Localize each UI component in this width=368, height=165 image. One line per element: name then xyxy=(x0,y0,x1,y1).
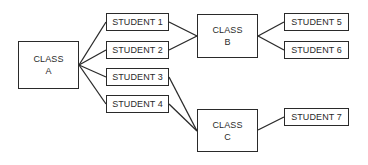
edge-student-4-class-c xyxy=(169,104,197,131)
student-1-box: STUDENT 1 xyxy=(106,13,169,31)
edge-student-2-class-b xyxy=(169,36,197,50)
edge-student-3-class-c xyxy=(169,77,197,131)
student-7-box: STUDENT 7 xyxy=(284,108,349,126)
edge-class-b-student-5 xyxy=(258,22,284,36)
student-4-label: STUDENT 4 xyxy=(112,99,163,110)
student-3-box: STUDENT 3 xyxy=(106,68,169,86)
edge-class-b-student-6 xyxy=(258,36,284,50)
student-2-label: STUDENT 2 xyxy=(112,45,163,56)
student-4-box: STUDENT 4 xyxy=(106,95,169,113)
class-c-label-line2: C xyxy=(224,131,231,143)
class-b-label-line2: B xyxy=(224,36,230,48)
class-c-box: CLASS C xyxy=(197,109,258,152)
class-a-label-line2: A xyxy=(45,65,51,77)
class-b-label-line1: CLASS xyxy=(212,24,242,36)
student-3-label: STUDENT 3 xyxy=(112,72,163,83)
edge-student-1-class-b xyxy=(169,22,197,36)
student-1-label: STUDENT 1 xyxy=(112,17,163,28)
student-7-label: STUDENT 7 xyxy=(291,112,342,123)
class-a-label-line1: CLASS xyxy=(33,53,63,65)
student-5-label: STUDENT 5 xyxy=(291,17,342,28)
class-c-label-line1: CLASS xyxy=(212,119,242,131)
student-6-label: STUDENT 6 xyxy=(291,45,342,56)
student-5-box: STUDENT 5 xyxy=(284,13,349,31)
class-b-box: CLASS B xyxy=(197,14,258,58)
student-6-box: STUDENT 6 xyxy=(284,41,349,59)
diagram-canvas: CLASS A STUDENT 1 STUDENT 2 STUDENT 3 ST… xyxy=(0,0,368,165)
class-a-box: CLASS A xyxy=(18,41,79,89)
edge-class-c-student-7 xyxy=(258,117,284,130)
student-2-box: STUDENT 2 xyxy=(106,41,169,59)
edge-class-a-student-1 xyxy=(79,22,106,65)
